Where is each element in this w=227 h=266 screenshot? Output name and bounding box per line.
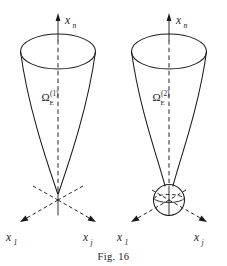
- x-j-label-symbol-right: x: [193, 231, 200, 243]
- x-j-arrowhead-right: [199, 216, 208, 223]
- figure-container: x n x 1 x j Ω E (1): [0, 0, 227, 266]
- cone-left-edge-right: [132, 52, 166, 187]
- x-j-arrowhead-left: [88, 216, 97, 223]
- x-j-label-subscript-left: j: [90, 238, 93, 247]
- x-1-label-left: x 1: [5, 231, 17, 247]
- cone-right-edge-left: [58, 52, 95, 194]
- omega-subscript-right: E: [161, 99, 165, 107]
- cone-opening-ellipse-left: [21, 34, 96, 69]
- omega-superscript-left: (1): [50, 90, 59, 98]
- panel-left: x n x 1 x j Ω E (1): [5, 13, 96, 247]
- x-1-axis-back-left: [58, 186, 83, 200]
- x-j-label-subscript-right: j: [201, 238, 204, 247]
- omega-subscript-left: E: [50, 99, 54, 107]
- cone-left-edge-left: [21, 52, 58, 194]
- figure-16-diagram: x n x 1 x j Ω E (1): [0, 0, 227, 266]
- x-1-arrowhead-right: [131, 216, 140, 223]
- x-n-label-subscript-right: n: [184, 21, 188, 30]
- x-n-label-subscript-left: n: [73, 21, 77, 30]
- x-n-label-symbol-left: x: [64, 14, 71, 26]
- x-j-label-left: x j: [82, 231, 93, 247]
- x-1-label-subscript-right: 1: [125, 238, 129, 247]
- x-n-label-right: x n: [175, 14, 188, 30]
- cone-rim-ellipse-left: [21, 34, 96, 69]
- x-1-label-symbol-left: x: [5, 231, 12, 243]
- figure-caption: Fig. 16: [98, 251, 130, 262]
- x-1-axis-front-left: [25, 200, 58, 219]
- x-1-arrowhead-left: [20, 216, 29, 223]
- x-n-arrowhead-right: [167, 13, 172, 21]
- x-n-label-symbol-right: x: [175, 14, 182, 26]
- x-1-label-right: x 1: [116, 231, 128, 247]
- x-n-label-left: x n: [64, 14, 77, 30]
- omega-symbol-left: Ω: [42, 91, 50, 103]
- omega-superscript-right: (2): [161, 90, 170, 98]
- x-j-axis-front-right: [169, 200, 202, 219]
- solid-angle-label-right: Ω E (2): [153, 90, 170, 108]
- x-j-axis-back-left: [33, 186, 58, 200]
- x-1-axis-front-right: [136, 200, 169, 219]
- x-j-axis-front-left: [58, 200, 91, 219]
- x-1-label-subscript-left: 1: [14, 238, 18, 247]
- solid-angle-label-left: Ω E (1): [42, 90, 59, 108]
- cone-right-edge-right: [173, 52, 207, 187]
- x-1-label-symbol-right: x: [116, 231, 123, 243]
- panel-right: x n x 1 x j Ω E (2): [116, 13, 207, 247]
- x-n-arrowhead-left: [56, 13, 61, 21]
- omega-symbol-right: Ω: [153, 91, 161, 103]
- x-j-label-right: x j: [193, 231, 204, 247]
- x-j-label-symbol-left: x: [82, 231, 89, 243]
